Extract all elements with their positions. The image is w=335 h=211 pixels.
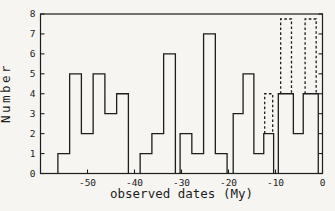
y-tick-label: 8: [30, 8, 36, 19]
y-tick-label: 0: [30, 168, 36, 179]
histogram-outline: [140, 54, 175, 174]
y-tick-label: 7: [30, 28, 36, 39]
histogram-outline: [58, 74, 129, 174]
y-tick-label: 4: [30, 88, 36, 99]
plot-content: -50-40-30-20-100012345678: [30, 8, 326, 187]
x-tick-label: 0: [320, 177, 326, 188]
histogram-outline: [278, 94, 318, 174]
histogram-outline: [233, 74, 273, 174]
dashed-bar-outline: [305, 19, 316, 94]
y-tick-label: 3: [30, 108, 36, 119]
y-axis-label: Number: [0, 63, 13, 123]
dashed-bar-outline: [265, 94, 273, 134]
histogram-outline: [180, 34, 227, 174]
x-axis-label: observed dates (My): [110, 186, 253, 201]
dashed-bar-outline: [281, 19, 292, 94]
histogram-plot: -50-40-30-20-100012345678 observed dates…: [0, 0, 335, 211]
y-tick-label: 1: [30, 148, 36, 159]
histogram-figure: -50-40-30-20-100012345678 observed dates…: [0, 0, 335, 211]
y-tick-label: 2: [30, 128, 36, 139]
x-tick-label: -10: [267, 177, 284, 188]
x-tick-label: -50: [79, 177, 96, 188]
y-tick-label: 6: [30, 48, 36, 59]
y-tick-label: 5: [30, 68, 36, 79]
